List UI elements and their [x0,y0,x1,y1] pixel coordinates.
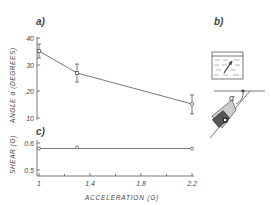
panel-a-series [37,44,194,114]
xtick-1.4: 1.4 [85,180,95,187]
a-ytick-20: 20 [25,88,34,95]
xtick-2.2: 2.2 [186,180,197,187]
xtick-1.8: 1.8 [136,180,146,187]
container-diagram [212,52,243,79]
panel-c-label: c) [36,126,46,137]
panel-a-label: a) [36,16,46,27]
xtick-1: 1 [37,180,41,187]
c-ytick-0.5: 0.5 [24,167,34,174]
a-ytick-40: 40 [26,35,34,42]
a-y-axis-label: ANGLE α (DEGREES) [9,47,17,124]
panel-c-axes [37,140,194,176]
a-ytick-30: 30 [26,62,34,69]
x-axis-label: ACCELERATION (G) [84,194,159,202]
organism-angle-diagram [210,90,265,138]
alpha-symbol: α [229,93,235,103]
panel-c-series [38,146,194,150]
c-y-axis-label: SHEAR (G) [9,135,17,174]
panel-b-label: b) [214,16,224,27]
a-ytick-10: 10 [26,115,34,122]
figure: a) 40 30 20 10 ANGLE α (DEGREES) b) [0,0,271,205]
c-ytick-0.6: 0.6 [24,140,34,147]
